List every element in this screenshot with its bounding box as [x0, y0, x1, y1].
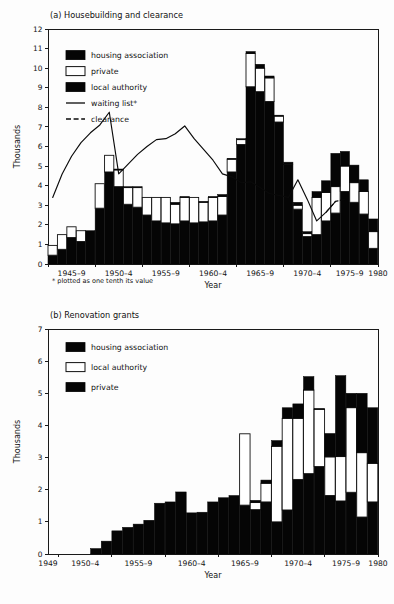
bar-segment: [265, 101, 274, 264]
x-tick-label: 1965–9: [231, 559, 259, 568]
bar-segment: [350, 165, 359, 183]
bar-segment: [180, 197, 189, 221]
bar-segment: [284, 162, 293, 164]
y-tick-label: 4: [38, 421, 43, 430]
bar-segment: [261, 502, 271, 554]
bar-segment: [227, 159, 236, 172]
bar-segment: [274, 115, 283, 116]
legend-swatch: [66, 83, 85, 92]
y-tick-label: 3: [38, 453, 43, 462]
bar-segment: [208, 197, 217, 221]
bar-segment: [346, 492, 356, 554]
bar-segment: [272, 441, 282, 447]
legend-label: private: [91, 383, 119, 392]
legend-swatch: [66, 343, 85, 352]
bar-segment: [246, 87, 255, 264]
x-tick-label: 1960–4: [178, 559, 206, 568]
x-tick-label: 1980: [368, 559, 387, 568]
bar-segment: [359, 192, 368, 215]
bar-segment: [133, 207, 142, 264]
legend-swatch: [66, 363, 85, 372]
bar-segment: [48, 255, 57, 264]
bar-segment: [152, 221, 161, 264]
bar-segment: [133, 524, 143, 554]
x-tick-label: 1950–4: [71, 559, 99, 568]
bar-segment: [314, 408, 324, 409]
bar-segment: [161, 197, 170, 222]
y-tick-label: 1: [38, 240, 43, 249]
y-tick-label: 1: [38, 517, 43, 526]
bar-segment: [142, 197, 151, 215]
bar-segment: [240, 434, 250, 505]
bar-segment: [246, 52, 255, 54]
legend-swatch: [66, 51, 85, 60]
bar-segment: [227, 158, 236, 159]
bar-segment: [250, 500, 260, 502]
bar-segment: [293, 205, 302, 209]
legend-label: waiting list*: [91, 99, 137, 108]
bar-segment: [282, 418, 292, 510]
bar-segment: [312, 197, 321, 234]
bar-segment: [274, 122, 283, 264]
bar-segment: [105, 155, 114, 172]
bar-segment: [265, 78, 274, 102]
chart-panel-housebuilding: (a) Housebuilding and clearance012345678…: [0, 0, 394, 300]
x-tick-label: 1955–9: [124, 559, 152, 568]
y-tick-label: 2: [38, 220, 43, 229]
bar-segment: [171, 224, 180, 264]
y-tick-label: 11: [33, 44, 43, 53]
bar-segment: [154, 503, 164, 554]
bar-segment: [303, 237, 312, 264]
bar-segment: [272, 522, 282, 554]
bar-segment: [369, 219, 378, 232]
bar-segment: [114, 187, 123, 264]
y-tick-label: 12: [33, 25, 42, 34]
y-tick-label: 9: [38, 83, 43, 92]
bar-segment: [312, 192, 321, 198]
bar-segment: [325, 496, 335, 555]
bar-segment: [293, 209, 302, 264]
bar-segment: [303, 232, 312, 234]
x-tick-label: 1975–9: [336, 269, 364, 278]
chart-panel-renovation: (b) Renovation grants01234567Thousands19…: [0, 300, 394, 604]
y-axis-title: Thousands: [13, 125, 22, 169]
bar-segment: [335, 457, 345, 501]
bar-segment: [95, 208, 104, 264]
bar-segment: [303, 234, 312, 237]
bar-segment: [312, 235, 321, 264]
bar-segment: [218, 196, 227, 215]
y-tick-label: 6: [38, 357, 43, 366]
bar-segment: [152, 197, 161, 221]
legend-label: local authority: [91, 83, 148, 92]
x-axis: 1945–91950–41955–91960–41965–91970–41975…: [48, 264, 388, 278]
bar-segment: [76, 241, 85, 264]
bar-segment: [76, 231, 85, 242]
bar-segment: [91, 549, 101, 554]
bar-segment: [246, 53, 255, 86]
bar-segment: [208, 502, 218, 554]
bar-segment: [227, 172, 236, 264]
x-tick-label: 1965–9: [246, 269, 274, 278]
bar-segment: [261, 483, 271, 502]
bar-segment: [250, 510, 260, 554]
legend-label: private: [91, 67, 119, 76]
y-tick-label: 3: [38, 201, 43, 210]
bar-segment: [57, 235, 66, 250]
bar-segment: [197, 512, 207, 554]
bar-segment: [199, 202, 208, 222]
bar-segment: [357, 393, 367, 452]
x-tick-label: 1970–4: [284, 559, 312, 568]
bar-segment: [229, 496, 239, 555]
bar-segment: [123, 187, 132, 188]
bar-segment: [331, 153, 340, 186]
legend-swatch: [66, 67, 85, 76]
bar-segment: [293, 202, 302, 205]
bar-segment: [340, 166, 349, 191]
bar-segment: [261, 480, 271, 483]
bar-segment: [359, 180, 368, 192]
y-tick-label: 0: [38, 550, 43, 559]
legend-label: housing association: [91, 51, 168, 60]
x-tick-label: 1949: [38, 559, 57, 568]
bar-segment: [367, 408, 377, 464]
bar-segment: [314, 467, 324, 554]
